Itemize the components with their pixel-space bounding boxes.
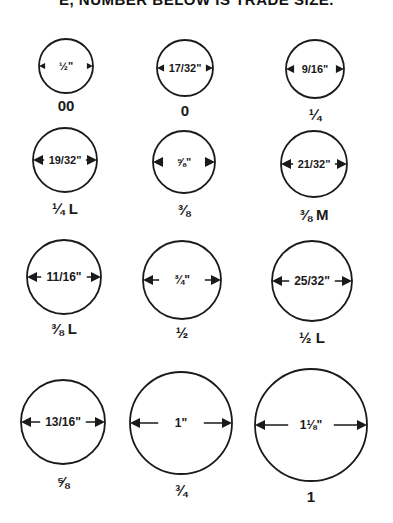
diameter-label: 25/32" <box>294 274 330 288</box>
arrow-right-icon <box>357 420 367 430</box>
diameter-label: ⅝" <box>177 156 191 168</box>
ring-size-diagram: ½"0017/32"09/16"¼19/32"¼ L⅝"⅜21/32"⅜ M11… <box>0 0 393 523</box>
arrow-left-icon <box>272 276 282 286</box>
ring-item: 13/16"⅝ <box>21 380 105 490</box>
trade-size-label: ⅜ <box>178 201 192 218</box>
arrow-right-icon <box>222 418 232 428</box>
arrow-right-icon <box>205 157 215 167</box>
ring-item: ⅝"⅜ <box>153 131 215 218</box>
ring-item: ½"00 <box>39 39 93 114</box>
ring-item: 1"¾ <box>130 372 232 499</box>
arrow-left-icon <box>255 420 265 430</box>
trade-size-label: ⅜ L <box>51 320 77 337</box>
arrow-left-icon <box>21 417 31 427</box>
arrow-left-icon <box>33 155 43 165</box>
ring-item: ¾"½ <box>143 241 221 341</box>
diameter-label: 21/32" <box>298 158 331 170</box>
ring-item: 21/32"⅜ M <box>281 131 347 223</box>
diameter-label: 13/16" <box>45 415 81 429</box>
diameter-label: 17/32" <box>169 62 202 74</box>
diameter-label: 19/32" <box>49 154 82 166</box>
arrow-left-icon <box>281 159 291 169</box>
trade-size-label: ¼ <box>309 106 323 123</box>
arrow-right-icon <box>87 155 97 165</box>
ring-item: 19/32"¼ L <box>33 128 97 217</box>
arrow-left-icon <box>27 272 37 282</box>
trade-size-label: ¼ L <box>52 200 78 217</box>
trade-size-label: 0 <box>181 102 189 119</box>
ring-item: 11/16"⅜ L <box>27 240 101 337</box>
diameter-label: 9/16" <box>302 63 329 75</box>
diameter-label: 1⅛" <box>300 418 322 432</box>
arrow-right-icon <box>91 272 101 282</box>
ring-item: 17/32"0 <box>157 40 213 119</box>
arrow-right-icon <box>337 159 347 169</box>
trade-size-label: 00 <box>58 97 75 114</box>
arrow-left-icon <box>143 275 153 285</box>
arrow-right-icon <box>95 417 105 427</box>
arrow-left-icon <box>153 157 163 167</box>
trade-size-label: ⅝ <box>57 473 71 490</box>
trade-size-label: ⅜ M <box>299 206 328 223</box>
ring-item: 9/16"¼ <box>286 40 344 123</box>
arrow-right-icon <box>211 275 221 285</box>
ring-item: 25/32"½ L <box>272 241 352 346</box>
diameter-label: ¾" <box>174 273 190 287</box>
trade-size-label: 1 <box>307 488 315 505</box>
trade-size-label: ¾ <box>175 482 189 499</box>
ring-item: 1⅛"1 <box>255 369 367 505</box>
arrow-right-icon <box>342 276 352 286</box>
trade-size-label: ½ <box>176 324 189 341</box>
diameter-label: 1" <box>175 416 187 430</box>
diameter-label: ½" <box>59 60 73 72</box>
trade-size-label: ½ L <box>299 329 325 346</box>
diameter-label: 11/16" <box>46 270 81 284</box>
arrow-left-icon <box>130 418 140 428</box>
